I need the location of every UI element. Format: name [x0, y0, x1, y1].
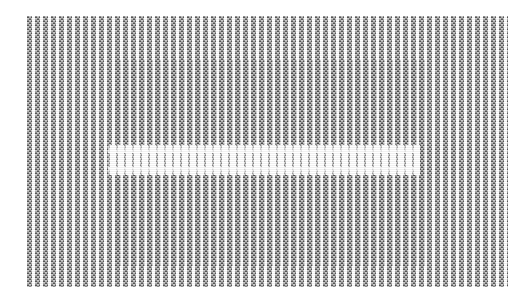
- stripe-block: [27, 16, 508, 287]
- vertical-stripe-bars: [27, 16, 508, 287]
- page-root: [0, 0, 532, 305]
- scanned-figure: [0, 0, 532, 305]
